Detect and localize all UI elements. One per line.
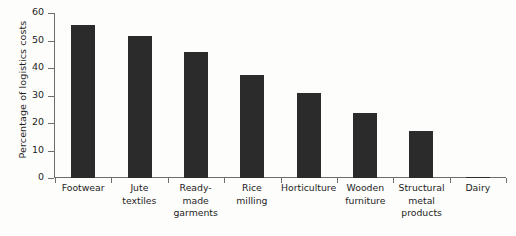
x-axis-category-label-line: Jute (112, 182, 166, 195)
x-axis-category-label: Structuralmetalproducts (393, 182, 449, 220)
x-axis-category-labels: FootwearJutetextilesReady-madegarmentsRi… (55, 182, 506, 220)
y-axis-tick: 40 (48, 68, 54, 69)
x-axis-category-label-line: Dairy (451, 182, 505, 195)
bar-cell (55, 13, 111, 178)
y-axis-tick-label: 30 (32, 89, 44, 100)
y-axis-tick-label: 50 (32, 34, 44, 45)
x-axis-category-label-line: Structural (394, 182, 448, 195)
x-axis-category-label: Dairy (450, 182, 506, 220)
x-axis-category-label-line: Footwear (56, 182, 110, 195)
x-axis-category-label-line: Rice (225, 182, 279, 195)
x-axis-category-label-line: products (394, 207, 448, 220)
x-axis-category-label: Ricemilling (224, 182, 280, 220)
y-axis-tick-label: 0 (38, 171, 44, 182)
bar-cell (111, 13, 167, 178)
bar-cell (281, 13, 337, 178)
x-axis-category-label-line: furniture (338, 195, 392, 208)
bar-cell (168, 13, 224, 178)
bar (71, 25, 95, 178)
bar-cell (224, 13, 280, 178)
bar-cell (337, 13, 393, 178)
y-axis-tick: 10 (48, 151, 54, 152)
bar (240, 75, 264, 178)
y-axis-tick-label: 10 (32, 144, 44, 155)
bar-cell (393, 13, 449, 178)
x-axis-category-label: Woodenfurniture (337, 182, 393, 220)
y-axis-tick: 20 (48, 123, 54, 124)
bar-series (55, 13, 506, 178)
y-axis-tick-label: 20 (32, 116, 44, 127)
x-axis-category-label: Ready-madegarments (168, 182, 224, 220)
plot-area: 0102030405060 (54, 13, 506, 178)
bar-chart: Percentage of logistics costs 0102030405… (0, 0, 516, 236)
x-axis-category-label: Horticulture (280, 182, 337, 220)
x-axis-category-label-line: textiles (112, 195, 166, 208)
y-axis-tick-label: 40 (32, 61, 44, 72)
x-axis-category-label-line: Wooden (338, 182, 392, 195)
x-axis-category-label-line: metal (394, 195, 448, 208)
bar-cell (450, 13, 506, 178)
x-axis-category-label-line: Horticulture (281, 182, 336, 195)
x-axis-category-label-line: garments (169, 207, 223, 220)
y-axis-tick: 0 (48, 178, 54, 179)
y-axis-tick: 30 (48, 96, 54, 97)
x-axis-category-label: Jutetextiles (111, 182, 167, 220)
y-axis-tick-label: 60 (32, 6, 44, 17)
y-axis-tick: 60 (48, 13, 54, 14)
x-axis-tick (506, 178, 507, 183)
bar (297, 93, 321, 178)
x-axis-category-label-line: Ready-made (169, 182, 223, 207)
y-axis-title: Percentage of logistics costs (17, 2, 28, 178)
bar (128, 36, 152, 178)
x-axis-category-label: Footwear (55, 182, 111, 220)
bar (184, 52, 208, 179)
bar (409, 131, 433, 178)
y-axis-tick: 50 (48, 41, 54, 42)
x-axis-category-label-line: milling (225, 195, 279, 208)
bar (353, 113, 377, 178)
bar (466, 177, 490, 179)
